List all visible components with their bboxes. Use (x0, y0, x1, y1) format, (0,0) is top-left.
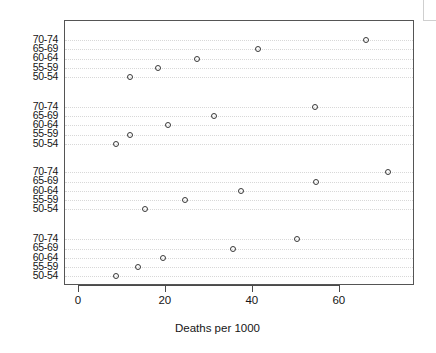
x-axis-title: Deaths per 1000 (0, 322, 435, 334)
y-axis-tick-label: 50-54 (0, 203, 58, 214)
x-axis-tick-label: 40 (232, 294, 272, 306)
x-axis-tick (339, 285, 340, 292)
y-axis-tick-label: 50-54 (0, 138, 58, 149)
x-axis-tick-label: 20 (145, 294, 185, 306)
x-axis-tick (165, 285, 166, 292)
y-axis-tick-label: 50-54 (0, 270, 58, 281)
x-axis-tick (78, 285, 79, 292)
x-axis-tick (252, 285, 253, 292)
x-axis: 0204060 (64, 285, 414, 315)
x-axis-line (78, 285, 339, 286)
x-axis-tick-label: 60 (319, 294, 359, 306)
y-axis-tick-label: 50-54 (0, 71, 58, 82)
x-axis-tick-label: 0 (58, 294, 98, 306)
